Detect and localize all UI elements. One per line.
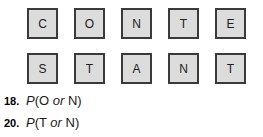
close-paren: ): [77, 93, 81, 108]
exercise-item: 20. P(T or N): [4, 115, 259, 137]
letter-tile: N: [121, 8, 152, 39]
letter-tile: C: [27, 8, 58, 39]
second-outcome: N: [68, 93, 77, 108]
exercise-number: 20.: [4, 117, 26, 129]
exercise-number: 18.: [4, 95, 26, 107]
probability-function-symbol: P: [26, 115, 35, 130]
letter-tile: A: [121, 53, 152, 84]
exercise-expression: P(T or N): [26, 115, 79, 130]
connector-or: or: [50, 115, 62, 130]
tile-row: S T A N T: [27, 53, 249, 84]
second-outcome: N: [66, 115, 75, 130]
probability-function-symbol: P: [26, 93, 35, 108]
letter-tile: T: [74, 53, 105, 84]
tile-row: C O N T E: [27, 8, 249, 39]
letter-tile: S: [27, 53, 58, 84]
first-outcome: O: [39, 93, 49, 108]
first-outcome: T: [39, 115, 47, 130]
exercise-expression: P(O or N): [26, 93, 82, 108]
letter-tile: N: [168, 53, 199, 84]
letter-tile-grid: C O N T E S T A N T: [27, 8, 249, 98]
letter-tile: O: [74, 8, 105, 39]
letter-tile: T: [215, 53, 246, 84]
exercise-item: 18. P(O or N): [4, 93, 259, 115]
worksheet-figure: C O N T E S T A N T 18. P(O or N) 20. P(…: [0, 0, 263, 137]
letter-tile: T: [168, 8, 199, 39]
exercise-list: 18. P(O or N) 20. P(T or N): [4, 93, 259, 137]
close-paren: ): [75, 115, 79, 130]
letter-tile: E: [215, 8, 246, 39]
connector-or: or: [53, 93, 65, 108]
